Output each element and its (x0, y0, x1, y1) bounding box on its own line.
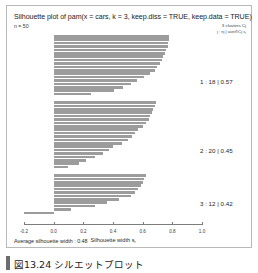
x-axis-tick (54, 222, 55, 226)
silhouette-plot-figure: Silhouette plot of pam(x = cars, k = 3, … (6, 5, 252, 248)
silhouette-bar (54, 181, 143, 184)
silhouette-bar (54, 201, 107, 204)
silhouette-bar (54, 191, 136, 194)
silhouette-bar (54, 145, 113, 148)
silhouette-bar (54, 89, 115, 92)
x-axis-title-sub: i (134, 239, 135, 244)
silhouette-bar (54, 79, 137, 82)
x-axis-title: Silhouette width si (91, 237, 136, 243)
figure-page: Silhouette plot of pam(x = cars, k = 3, … (0, 0, 258, 273)
x-axis-tick-label: 0.2 (80, 229, 86, 234)
silhouette-bar (54, 184, 142, 187)
x-axis-tick-label: 1.0 (199, 229, 205, 234)
silhouette-bar (54, 86, 124, 89)
x-axis-tick-label: 0.6 (139, 229, 145, 234)
silhouette-bar (54, 142, 122, 145)
silhouette-bar (54, 42, 168, 45)
silhouette-bar (54, 118, 149, 121)
silhouette-bar (54, 72, 150, 75)
figure-caption: 図13.24 シルエットプロット (14, 257, 144, 271)
silhouette-bar (54, 66, 158, 69)
x-axis-tick (24, 222, 25, 226)
x-axis-tick (83, 222, 84, 226)
silhouette-bar (54, 205, 96, 208)
x-axis-tick (202, 222, 203, 226)
silhouette-bar (54, 76, 144, 79)
silhouette-bar (54, 139, 128, 142)
silhouette-bar (54, 208, 72, 211)
x-axis-tick-label: 0.8 (169, 229, 175, 234)
silhouette-bar (54, 125, 143, 128)
silhouette-bars (14, 34, 192, 220)
cluster-legend-header: 3 clusters Cj j : nj | avei∈Cj si (217, 23, 246, 34)
silhouette-bar (54, 45, 168, 48)
x-axis-tick (143, 222, 144, 226)
silhouette-bar (54, 174, 146, 177)
silhouette-bar (54, 166, 69, 169)
silhouette-bar (54, 135, 133, 138)
silhouette-bar (54, 52, 165, 55)
silhouette-bar (54, 101, 156, 104)
silhouette-bar (54, 49, 167, 52)
average-silhouette-width: Average silhouette width : 0.48 (14, 238, 88, 244)
x-axis-tick-label: 0.4 (110, 229, 116, 234)
cluster-annotation-1: 1 : 18 | 0.57 (200, 78, 233, 85)
plot-area: 1 : 18 | 0.57 2 : 20 | 0.45 3 : 12 | 0.4… (14, 34, 246, 220)
caption-accent-bar (6, 256, 10, 270)
silhouette-bar (54, 83, 131, 86)
silhouette-bar (54, 62, 161, 65)
x-axis-title-text: Silhouette width s (91, 237, 135, 243)
silhouette-bar (54, 159, 87, 162)
silhouette-bar (54, 111, 152, 114)
x-axis-tick (172, 222, 173, 226)
silhouette-bar (54, 128, 139, 131)
cluster-annotation-3: 3 : 12 | 0.42 (200, 200, 233, 207)
silhouette-bar (54, 59, 162, 62)
silhouette-bar (54, 195, 131, 198)
silhouette-bar (54, 115, 150, 118)
silhouette-bar (54, 105, 155, 108)
silhouette-bar (54, 198, 119, 201)
silhouette-bar (54, 35, 170, 38)
silhouette-bar (54, 178, 144, 181)
x-axis-tick (113, 222, 114, 226)
silhouette-bar (54, 55, 164, 58)
silhouette-bar (54, 156, 96, 159)
silhouette-bar (54, 188, 139, 191)
silhouette-bar (54, 149, 109, 152)
silhouette-bar (54, 69, 155, 72)
plot-subtitle-n: n = 50 (14, 23, 29, 29)
silhouette-bar (54, 93, 91, 96)
x-axis-tick-label: -0.2 (20, 229, 28, 234)
silhouette-bar (54, 132, 136, 135)
silhouette-bar (54, 152, 103, 155)
silhouette-bar (54, 122, 146, 125)
silhouette-bar (24, 212, 54, 215)
silhouette-bar (54, 38, 170, 41)
silhouette-bar (54, 162, 79, 165)
plot-title: Silhouette plot of pam(x = cars, k = 3, … (14, 13, 252, 21)
cluster-annotation-2: 2 : 20 | 0.45 (200, 147, 233, 154)
silhouette-bar (54, 108, 153, 111)
x-axis-tick-label: 0.0 (50, 229, 56, 234)
figure-caption-row: 図13.24 シルエットプロット (0, 255, 258, 273)
x-axis: Silhouette width si -0.20.00.20.40.60.81… (14, 224, 246, 248)
